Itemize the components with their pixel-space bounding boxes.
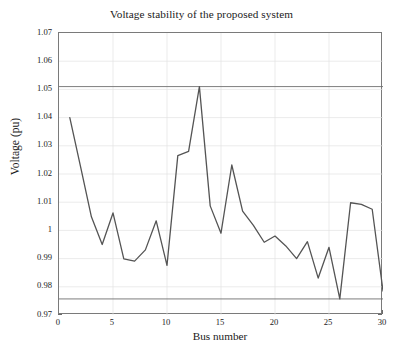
y-tick-label: 1.06 bbox=[18, 55, 52, 65]
y-tick-label: 1.01 bbox=[18, 196, 52, 206]
x-axis-label: Bus number bbox=[58, 330, 382, 342]
x-tick-label: 25 bbox=[313, 317, 343, 327]
plot-area bbox=[58, 32, 382, 314]
y-tick-label: 1.05 bbox=[18, 83, 52, 93]
y-tick-label: 0.98 bbox=[18, 280, 52, 290]
data-series-line bbox=[70, 87, 383, 299]
x-tick-label: 15 bbox=[205, 317, 235, 327]
y-tick-label: 1.04 bbox=[18, 111, 52, 121]
y-tick-label: 1.03 bbox=[18, 139, 52, 149]
y-tick-label: 1.07 bbox=[18, 27, 52, 37]
y-tick-label: 1 bbox=[18, 224, 52, 234]
y-tick-label: 0.99 bbox=[18, 252, 52, 262]
x-tick-label: 0 bbox=[43, 317, 73, 327]
chart-title: Voltage stability of the proposed system bbox=[0, 8, 403, 20]
plot-svg bbox=[59, 33, 383, 315]
voltage-stability-chart-figure: Voltage stability of the proposed system… bbox=[0, 0, 403, 354]
x-tick-label: 10 bbox=[151, 317, 181, 327]
x-tick-label: 30 bbox=[367, 317, 397, 327]
y-tick-label: 1.02 bbox=[18, 168, 52, 178]
x-tick-label: 5 bbox=[97, 317, 127, 327]
x-tick-label: 20 bbox=[259, 317, 289, 327]
data-series-lines bbox=[70, 87, 383, 299]
